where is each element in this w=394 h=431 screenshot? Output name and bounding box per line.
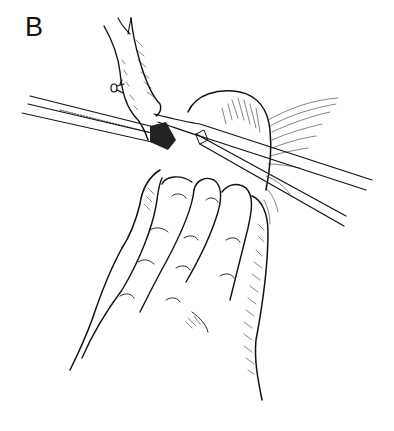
surgical-illustration	[0, 0, 394, 431]
clamp-right	[154, 114, 372, 226]
tissue-mass	[188, 91, 271, 190]
forceps-left	[22, 96, 176, 150]
hand	[70, 170, 268, 400]
